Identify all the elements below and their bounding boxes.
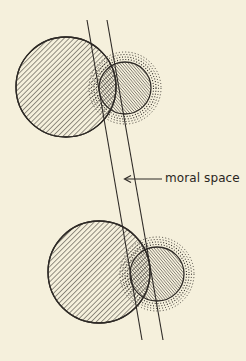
left-arrow-icon bbox=[125, 176, 163, 183]
small-circle-bottom bbox=[130, 247, 184, 301]
moral-space-label: moral space bbox=[165, 171, 240, 185]
bottom-circle-group bbox=[48, 221, 194, 323]
small-circle-top bbox=[99, 62, 151, 114]
top-circle-group bbox=[16, 37, 161, 137]
